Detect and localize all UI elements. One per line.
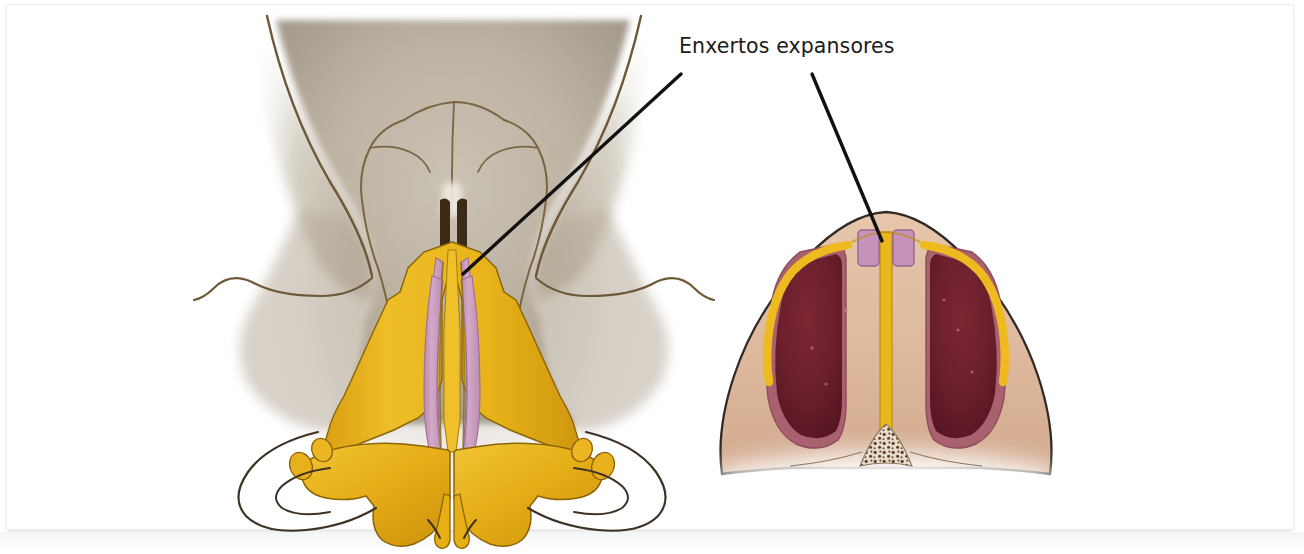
figure-root: Enxertos expansores <box>0 0 1304 554</box>
leader-line-right <box>812 74 882 241</box>
medical-illustration-canvas <box>0 0 1304 554</box>
septal-cartilage-center <box>444 250 460 452</box>
frontal-nose-view <box>194 16 714 548</box>
cross-section-view <box>716 212 1056 500</box>
septum-cartilage-xs <box>880 232 892 430</box>
annotation-label-enxertos-expansores: Enxertos expansores <box>679 34 895 59</box>
